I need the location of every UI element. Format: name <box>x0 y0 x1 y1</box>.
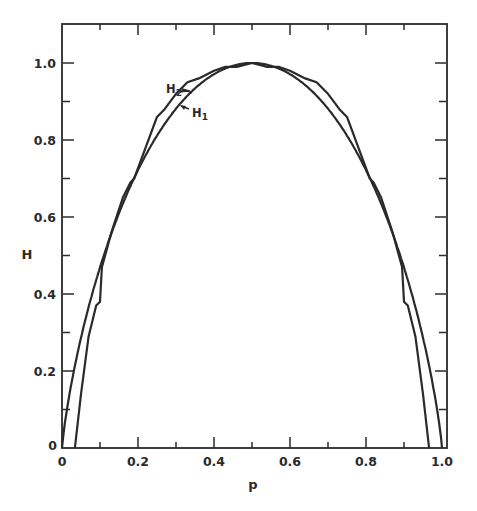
x-tick-label: 1.0 <box>431 454 453 469</box>
y-tick-label: 0.4 <box>34 287 56 302</box>
annotation-h1-label: H1 <box>192 106 208 122</box>
annotation-h1: H1 <box>180 105 208 122</box>
x-tick-label: 0 <box>58 454 67 469</box>
x-tick-label: 0.2 <box>127 454 149 469</box>
series-h1-line <box>62 63 442 448</box>
y-tick-label: 0 <box>48 438 57 453</box>
axis-tick-labels: 00.20.40.60.81.000.20.40.60.81.0 <box>34 56 454 469</box>
data-series <box>62 63 442 448</box>
x-axis-label: p <box>248 477 257 492</box>
x-tick-label: 0.6 <box>279 454 301 469</box>
series-h2-line <box>75 63 429 448</box>
annotation-h2-arrow <box>181 89 192 93</box>
plot-frame <box>62 24 447 448</box>
annotation-h2-label: H2 <box>166 82 182 98</box>
y-axis-label: H <box>22 247 33 262</box>
y-tick-label: 0.6 <box>34 210 56 225</box>
y-tick-label: 1.0 <box>34 56 56 71</box>
axis-ticks <box>63 24 446 448</box>
x-tick-label: 0.8 <box>355 454 377 469</box>
x-tick-label: 0.4 <box>203 454 225 469</box>
entropy-chart: 00.20.40.60.81.000.20.40.60.81.0 H p H2 … <box>0 0 477 511</box>
y-tick-label: 0.2 <box>34 364 56 379</box>
y-tick-label: 0.8 <box>34 133 56 148</box>
